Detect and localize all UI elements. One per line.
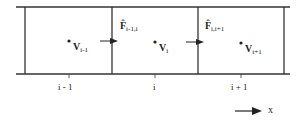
cell-index-label: i - 1 [58, 82, 73, 92]
cell-center-dot [239, 41, 242, 44]
flux-arrow-icon [186, 39, 204, 45]
cell-value-label: Vi-1 [73, 41, 88, 54]
cell-value-label: Vi+1 [245, 43, 262, 56]
x-axis-arrow-icon [235, 107, 262, 115]
flux-label: F̂i,i+1 [205, 20, 224, 33]
cell-center-dot [67, 39, 70, 42]
cell-value-label: Vi [159, 42, 168, 55]
flux-arrow-icon [100, 38, 118, 44]
cell-index-label: i [153, 82, 156, 92]
cell-center-dot [153, 40, 156, 43]
diagram-canvas [0, 0, 302, 122]
cell-index-label: i + 1 [231, 82, 248, 92]
flux-label: F̂i-1,i [120, 20, 138, 33]
x-axis-label: x [268, 104, 273, 115]
